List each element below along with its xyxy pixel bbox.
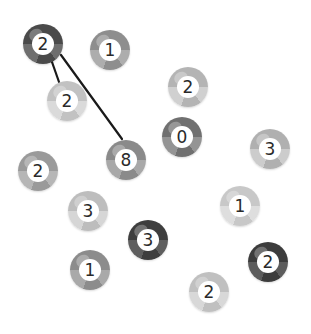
island-ball[interactable]: 3 (128, 220, 168, 260)
island-number: 1 (229, 195, 251, 217)
island-ball[interactable]: 2 (168, 67, 208, 107)
island-number: 2 (257, 251, 279, 273)
island-ball[interactable]: 1 (70, 250, 110, 290)
island-number: 3 (259, 138, 281, 160)
island-number: 2 (177, 76, 199, 98)
island-number: 2 (198, 281, 220, 303)
island-number: 1 (79, 259, 101, 281)
island-ball[interactable]: 3 (68, 191, 108, 231)
island-number: 3 (77, 200, 99, 222)
island-number: 0 (171, 126, 193, 148)
island-ball[interactable]: 2 (23, 24, 63, 64)
island-ball[interactable]: 1 (90, 30, 130, 70)
island-ball[interactable]: 2 (248, 242, 288, 282)
island-number: 2 (56, 90, 78, 112)
bridge-line[interactable] (52, 62, 59, 82)
island-number: 8 (115, 149, 137, 171)
island-ball[interactable]: 2 (47, 81, 87, 121)
island-ball[interactable]: 2 (18, 151, 58, 191)
island-ball[interactable]: 3 (250, 129, 290, 169)
island-ball[interactable]: 8 (106, 140, 146, 180)
island-ball[interactable]: 2 (189, 272, 229, 312)
island-number: 1 (99, 39, 121, 61)
island-number: 2 (27, 160, 49, 182)
puzzle-board[interactable]: 21220832313122 (0, 0, 311, 334)
island-ball[interactable]: 1 (220, 186, 260, 226)
island-number: 3 (137, 229, 159, 251)
island-number: 2 (32, 33, 54, 55)
island-ball[interactable]: 0 (162, 117, 202, 157)
